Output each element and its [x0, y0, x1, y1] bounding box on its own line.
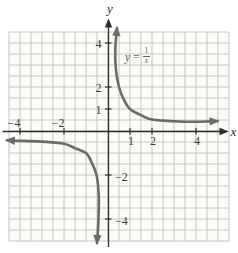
equation-lhs: y [125, 51, 130, 63]
y-axis-letter: y [105, 1, 113, 16]
y-tick-label: 2 [96, 81, 102, 95]
x-tick-label: −4 [8, 116, 21, 130]
x-tick-label: −2 [52, 116, 65, 130]
curve-equation: y = 1 x [125, 48, 150, 66]
x-axis-letter: x [230, 124, 237, 139]
y-tick-label: 4 [96, 37, 102, 51]
x-tick-label: 2 [150, 134, 156, 148]
graph-figure: −4−2124421−2−4 x y y = 1 x [0, 0, 238, 253]
y-tick-label: −2 [115, 170, 128, 184]
y-tick-label: 1 [96, 103, 102, 117]
equation-equals: = [133, 51, 140, 63]
equation-fraction: 1 x [143, 47, 151, 65]
x-tick-label: 4 [194, 134, 200, 148]
equation-denominator: x [145, 57, 148, 65]
y-tick-label: −4 [115, 214, 128, 228]
x-tick-label: 1 [128, 134, 134, 148]
function-graph-svg: −4−2124421−2−4 x y [0, 0, 238, 253]
